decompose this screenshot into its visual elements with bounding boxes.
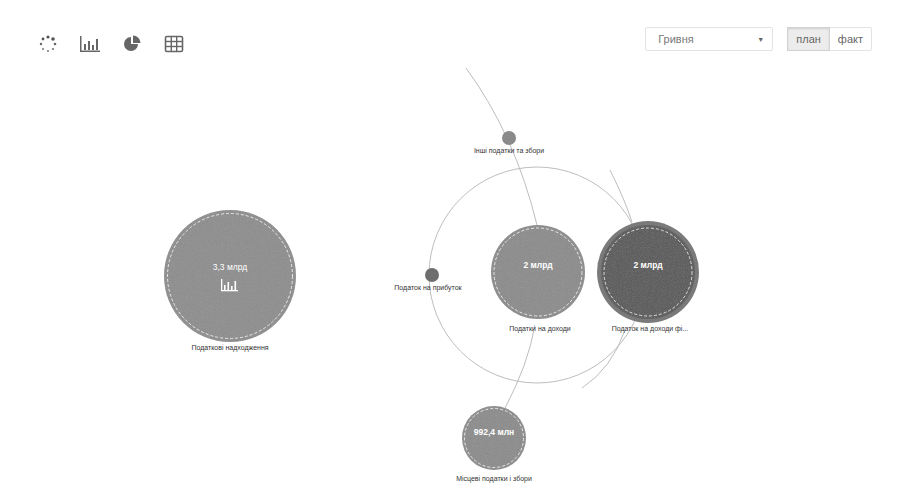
orbit-arc-bottom bbox=[505, 325, 535, 408]
bubble-profit-tax[interactable]: Податок на прибуток bbox=[394, 268, 462, 292]
bubble-label: Інші податки та збори bbox=[474, 147, 544, 155]
orbit-arc-right bbox=[610, 170, 632, 222]
bubble-label: Податки на доходи bbox=[509, 325, 571, 333]
bubble-label: Податкові надходження bbox=[191, 344, 268, 352]
bubble-value: 3,3 млрд bbox=[213, 262, 248, 272]
bubble-value: 2 млрд bbox=[523, 260, 553, 270]
bubble-chart: 3,3 млрд Податкові надходження Інші пода… bbox=[0, 0, 916, 503]
bubble-income-taxes[interactable]: 2 млрд Податки на доходи bbox=[491, 225, 585, 333]
bubble-tax-revenues[interactable]: 3,3 млрд Податкові надходження bbox=[164, 210, 296, 352]
bubble-value: 992,4 млн bbox=[474, 427, 514, 437]
bubble-value: 2 млрд bbox=[633, 260, 663, 270]
bubble-label: Податок на прибуток bbox=[394, 284, 462, 292]
bubble-local-taxes[interactable]: 992,4 млн Місцеві податки і збори bbox=[456, 406, 532, 483]
bubble-other-taxes[interactable]: Інші податки та збори bbox=[474, 131, 544, 155]
bubble-personal-income-tax[interactable]: 2 млрд Податок на доходи фі... bbox=[597, 221, 699, 333]
orbit-arc-right-lower bbox=[582, 330, 625, 388]
bubble-label: Податок на доходи фі... bbox=[612, 325, 689, 333]
bubble-label: Місцеві податки і збори bbox=[456, 475, 532, 483]
